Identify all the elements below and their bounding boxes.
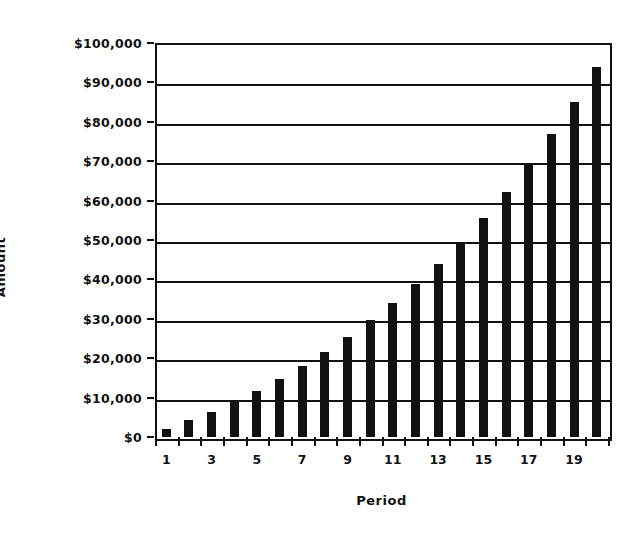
x-tick-mark: [223, 437, 225, 446]
x-tick-mark: [178, 437, 180, 446]
y-tick-mark: [147, 397, 154, 399]
x-tick-label: 1: [146, 452, 186, 467]
bar: [298, 366, 307, 437]
x-tick-mark: [382, 437, 384, 446]
y-tick-label: $60,000: [22, 193, 142, 208]
y-tick-mark: [147, 436, 154, 438]
y-tick-mark: [147, 318, 154, 320]
x-tick-mark: [608, 437, 610, 446]
x-axis-title: Period: [155, 493, 608, 508]
bar: [343, 337, 352, 437]
bar: [502, 192, 511, 437]
y-tick-mark: [147, 278, 154, 280]
bar: [230, 402, 239, 437]
bar: [592, 67, 601, 437]
y-tick-mark: [147, 200, 154, 202]
bar: [411, 284, 420, 437]
bar: [207, 412, 216, 437]
bar: [162, 429, 171, 437]
x-tick-label: 19: [554, 452, 594, 467]
y-tick-label: $70,000: [22, 154, 142, 169]
x-tick-mark: [291, 437, 293, 446]
bar: [366, 320, 375, 437]
bar: [570, 102, 579, 437]
x-tick-label: 13: [418, 452, 458, 467]
x-tick-mark: [155, 437, 157, 446]
bar-series: [155, 43, 608, 437]
y-tick-mark: [147, 160, 154, 162]
y-tick-mark: [147, 121, 154, 123]
y-tick-mark: [147, 81, 154, 83]
bar: [184, 420, 193, 437]
bar-chart: Amount $0$10,000$20,000$30,000$40,000$50…: [0, 0, 642, 534]
bar: [547, 134, 556, 437]
x-tick-mark: [314, 437, 316, 446]
x-tick-mark: [563, 437, 565, 446]
x-tick-mark: [540, 437, 542, 446]
x-tick-mark: [427, 437, 429, 446]
x-tick-label: 15: [463, 452, 503, 467]
bar: [320, 352, 329, 437]
bar: [479, 218, 488, 437]
bar: [252, 391, 261, 437]
y-tick-label: $0: [22, 430, 142, 445]
y-tick-mark: [147, 357, 154, 359]
y-tick-label: $40,000: [22, 272, 142, 287]
y-tick-label: $90,000: [22, 75, 142, 90]
x-tick-label: 11: [373, 452, 413, 467]
x-tick-mark: [246, 437, 248, 446]
bar: [434, 264, 443, 437]
x-axis-tick-marks: [155, 437, 608, 449]
bar: [524, 164, 533, 437]
x-axis-tick-labels: 135791113151719: [155, 452, 608, 474]
y-tick-label: $50,000: [22, 233, 142, 248]
y-tick-label: $80,000: [22, 114, 142, 129]
y-tick-label: $20,000: [22, 351, 142, 366]
x-tick-label: 17: [509, 452, 549, 467]
y-tick-label: $100,000: [22, 36, 142, 51]
x-tick-mark: [359, 437, 361, 446]
bar: [388, 303, 397, 437]
x-tick-label: 9: [328, 452, 368, 467]
x-tick-label: 7: [282, 452, 322, 467]
x-tick-mark: [449, 437, 451, 446]
x-tick-mark: [517, 437, 519, 446]
x-tick-label: 3: [192, 452, 232, 467]
bar: [275, 379, 284, 437]
x-tick-mark: [585, 437, 587, 446]
x-tick-mark: [472, 437, 474, 446]
y-tick-mark: [147, 239, 154, 241]
x-tick-mark: [404, 437, 406, 446]
x-tick-mark: [200, 437, 202, 446]
y-tick-label: $10,000: [22, 390, 142, 405]
x-tick-mark: [268, 437, 270, 446]
x-tick-mark: [336, 437, 338, 446]
y-tick-label: $30,000: [22, 311, 142, 326]
y-tick-mark: [147, 42, 154, 44]
bar: [456, 242, 465, 437]
x-tick-label: 5: [237, 452, 277, 467]
x-tick-mark: [495, 437, 497, 446]
